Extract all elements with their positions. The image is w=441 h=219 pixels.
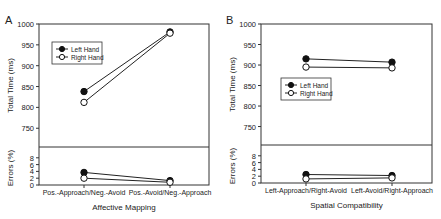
y-tick-label: 950: [21, 41, 34, 50]
chart-figure: A750800850900950100002468Total Time (ms)…: [0, 0, 441, 219]
open-circle-marker: [303, 176, 309, 182]
x-tick-label: Left-Avoid/Right-Approach: [351, 187, 433, 195]
y-tick-label: 900: [243, 61, 256, 70]
legend-entry: Left Hand: [300, 82, 329, 89]
y-tick-label: 750: [243, 123, 256, 132]
open-circle-marker: [81, 99, 87, 105]
open-circle-marker: [389, 65, 395, 71]
y-tick-label: 900: [21, 62, 34, 71]
x-tick-label: Pos.-Avoid/Neg.-Approach: [129, 189, 212, 197]
series-line: [306, 178, 392, 179]
legend: Left HandRight Hand: [52, 42, 104, 64]
open-circle-icon: [288, 90, 293, 95]
y-axis-label-errors: Errors (%): [228, 147, 237, 184]
panel-b: B750800850900950100002468Total Time (ms)…: [226, 14, 433, 210]
series-line: [306, 59, 392, 62]
y-axis-label-time: Total Time (ms): [6, 58, 15, 113]
legend-entry: Right Hand: [71, 54, 104, 62]
filled-circle-icon: [288, 82, 293, 87]
open-circle-marker: [167, 179, 173, 185]
x-tick-label: Pos.-Approach/Neg.-Avoid: [43, 189, 126, 197]
filled-circle-marker: [81, 88, 87, 94]
y-tick-label: 850: [21, 83, 34, 92]
panel-label: B: [226, 14, 233, 26]
series-line: [84, 178, 170, 182]
y-axis-label-errors: Errors (%): [6, 149, 15, 186]
y-tick-label: 8: [252, 152, 256, 161]
series-line: [306, 175, 392, 176]
x-axis-label: Affective Mapping: [92, 203, 155, 212]
y-tick-label: 1000: [17, 20, 34, 29]
y-tick-label: 750: [21, 124, 34, 133]
y-tick-label: 800: [21, 103, 34, 112]
y-tick-label: 850: [243, 82, 256, 91]
legend-entry: Right Hand: [300, 90, 333, 98]
y-tick-label: 950: [243, 41, 256, 50]
open-circle-marker: [167, 30, 173, 36]
open-circle-marker: [81, 175, 87, 181]
open-circle-marker: [303, 64, 309, 70]
open-circle-marker: [389, 175, 395, 181]
legend: Left HandRight Hand: [281, 78, 333, 100]
series-line: [84, 172, 170, 180]
x-tick-label: Left-Approach/Right-Avoid: [265, 187, 347, 195]
legend-entry: Left Hand: [71, 46, 100, 53]
open-circle-icon: [59, 54, 64, 59]
series-line: [306, 67, 392, 68]
panel-a: A750800850900950100002468Total Time (ms)…: [5, 14, 211, 212]
y-tick-label: 1000: [239, 20, 256, 29]
x-axis-label: Spatial Compatibility: [310, 201, 382, 210]
y-axis-label-time: Total Time (ms): [228, 57, 237, 112]
y-tick-label: 800: [243, 102, 256, 111]
panel-label: A: [5, 14, 13, 26]
filled-circle-marker: [303, 56, 309, 62]
y-tick-label: 8: [30, 154, 34, 163]
plot-frame: [261, 24, 432, 183]
filled-circle-icon: [59, 46, 64, 51]
